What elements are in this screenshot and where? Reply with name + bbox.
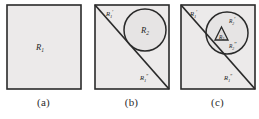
panel-a: R1 (a)	[2, 0, 85, 119]
panel-a-diagram: R1	[2, 0, 85, 96]
caption-panel-c: (c)	[176, 96, 259, 108]
panel-b: R1′ R1″ R2 (b)	[90, 0, 173, 119]
caption-panel-a: (a)	[2, 96, 85, 108]
panel-c-diagram: R1′ R1″ R2′ R2″ R3	[176, 0, 259, 96]
circle-region-r2	[206, 12, 248, 54]
panel-c: R1′ R1″ R2′ R2″ R3 (c)	[176, 0, 259, 119]
figure-container: R1 (a) R1′ R1″ R2 (b)	[0, 0, 259, 119]
caption-panel-b: (b)	[90, 96, 173, 108]
square-region-fill	[7, 5, 81, 89]
panel-b-diagram: R1′ R1″ R2	[90, 0, 173, 96]
